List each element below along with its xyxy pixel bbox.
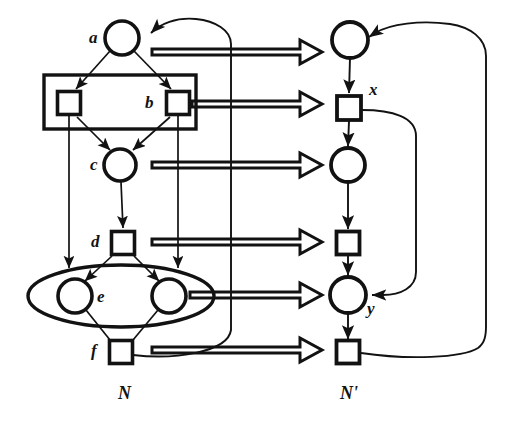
place-e-left [58, 279, 92, 313]
label-f: f [91, 342, 97, 359]
arc-a-to-b-right [134, 51, 171, 89]
transition-f [110, 341, 133, 364]
feedback-outer-right [361, 22, 486, 357]
caption-net-n-prime: N' [340, 384, 358, 402]
place-e-right [152, 279, 186, 313]
diagram-canvas [0, 0, 505, 425]
place-a [105, 21, 139, 55]
transition-bottom [337, 341, 360, 364]
transition-d [112, 232, 135, 255]
arc-c-to-d [121, 182, 123, 228]
place-a-prime [332, 22, 368, 58]
place-middle [331, 148, 365, 182]
place-c [104, 149, 136, 181]
transition-b-left [58, 92, 81, 115]
arc-b-left-to-c [77, 117, 110, 150]
label-a: a [89, 29, 98, 46]
mapping-arrow-f [152, 338, 322, 362]
mapping-arrow-b [192, 92, 322, 116]
label-y: y [367, 300, 375, 317]
label-x: x [369, 81, 378, 98]
feedback-inner-right [362, 110, 416, 295]
figure-petri-net-refinement: a b c d e f x y N N' [0, 0, 505, 425]
caption-net-n: N [118, 384, 131, 402]
label-b: b [145, 94, 154, 111]
arc-d-to-e-left [85, 256, 112, 281]
mapping-arrow-a [152, 40, 322, 64]
transition-b-right [167, 92, 190, 115]
place-y [330, 277, 366, 313]
arc-a-to-b-left [76, 51, 110, 89]
arc-aprime-to-x [349, 58, 350, 93]
transition-middle [337, 232, 360, 255]
arc-b-right-to-c [133, 117, 170, 150]
transition-x [337, 96, 361, 120]
label-c: c [90, 156, 98, 173]
label-d: d [91, 233, 100, 250]
arc-x-to-middle-place [348, 121, 349, 146]
label-e: e [97, 288, 105, 305]
